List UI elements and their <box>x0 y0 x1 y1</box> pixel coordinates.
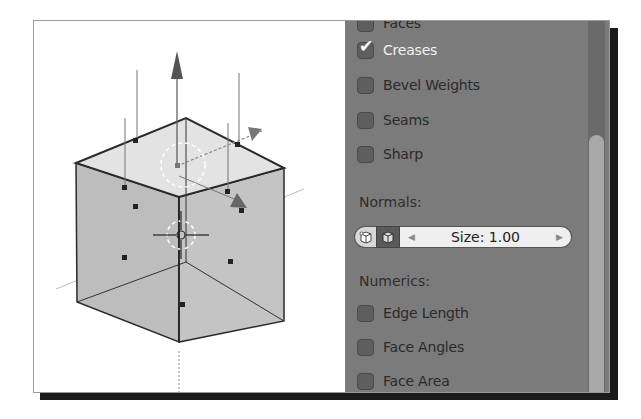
overlay-creases-toggle[interactable]: ✔ Creases <box>357 39 437 61</box>
overlay-faces-toggle[interactable]: Faces <box>357 21 421 34</box>
numerics-section-label: Numerics: <box>359 273 430 289</box>
face-dot <box>122 255 127 260</box>
vertex <box>122 185 127 190</box>
overlay-bevel-weights-toggle[interactable]: Bevel Weights <box>357 74 480 96</box>
manipulator-center <box>175 163 180 168</box>
face-area-checkbox[interactable] <box>357 373 374 390</box>
numerics-face-area-toggle[interactable]: Face Area <box>357 370 450 392</box>
check-icon: ✔ <box>359 38 373 55</box>
normals-section-label: Normals: <box>359 194 422 210</box>
vertex <box>235 142 240 147</box>
decrement-arrow-icon[interactable]: ◀ <box>408 232 415 242</box>
face-dot <box>239 208 244 213</box>
face-area-label: Face Area <box>383 373 450 389</box>
overlay-seams-toggle[interactable]: Seams <box>357 109 429 131</box>
app-frame: Faces ✔ Creases Bevel Weights Seams Shar… <box>33 20 610 393</box>
sharp-label: Sharp <box>383 146 423 162</box>
seams-label: Seams <box>383 112 429 128</box>
viewport-canvas[interactable] <box>34 21 345 393</box>
normals-size-value: Size: 1.00 <box>451 229 520 245</box>
creases-label: Creases <box>383 42 437 58</box>
vertex <box>225 189 230 194</box>
edge-length-label: Edge Length <box>383 305 469 321</box>
overlay-sharp-toggle[interactable]: Sharp <box>357 143 423 165</box>
numerics-edge-length-toggle[interactable]: Edge Length <box>357 302 469 324</box>
scrollbar-thumb[interactable] <box>589 135 604 392</box>
vertex-normals-icon <box>359 230 373 244</box>
faces-label: Faces <box>383 21 421 31</box>
manipulator-z-arrow[interactable] <box>171 51 183 79</box>
face-dot <box>228 259 233 264</box>
bevel-weights-checkbox[interactable] <box>357 77 374 94</box>
face-dot <box>133 204 138 209</box>
face-normals-button[interactable] <box>376 226 400 248</box>
seams-checkbox[interactable] <box>357 112 374 129</box>
edge-length-checkbox[interactable] <box>357 305 374 322</box>
face-dot <box>180 302 185 307</box>
panel-scrollbar[interactable] <box>588 21 605 392</box>
face-angles-checkbox[interactable] <box>357 339 374 356</box>
normals-controls: ◀ Size: 1.00 ▶ <box>354 226 572 248</box>
panel-edge <box>605 21 610 392</box>
normals-size-field[interactable]: ◀ Size: 1.00 ▶ <box>400 226 572 248</box>
face-normals-icon <box>381 230 395 244</box>
cube-face-right <box>179 168 284 342</box>
vertex-normals-button[interactable] <box>354 226 376 248</box>
face-angles-label: Face Angles <box>383 339 464 355</box>
sharp-checkbox[interactable] <box>357 146 374 163</box>
manipulator-x-arrow[interactable] <box>248 127 262 141</box>
faces-checkbox[interactable] <box>357 21 374 32</box>
increment-arrow-icon[interactable]: ▶ <box>556 232 563 242</box>
bevel-weights-label: Bevel Weights <box>383 77 480 93</box>
vertex <box>133 138 138 143</box>
numerics-face-angles-toggle[interactable]: Face Angles <box>357 336 464 358</box>
creases-checkbox[interactable]: ✔ <box>357 42 374 59</box>
properties-panel: Faces ✔ Creases Bevel Weights Seams Shar… <box>345 21 610 392</box>
3d-viewport[interactable] <box>34 21 345 392</box>
